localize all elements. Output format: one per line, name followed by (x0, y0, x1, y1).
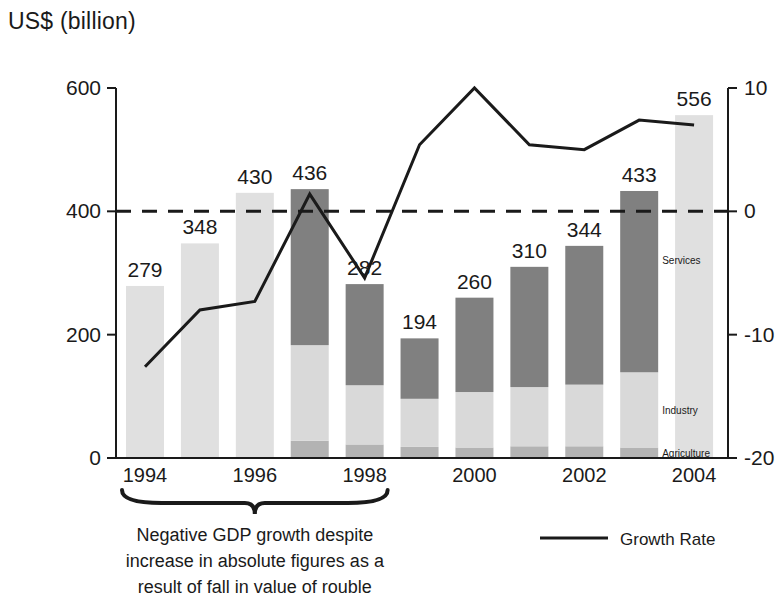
chart-container: US$ (billion) 27934843043628219426031034… (0, 0, 784, 600)
x-axis-year-label: 1996 (233, 464, 278, 486)
bar-value-label: 348 (182, 215, 217, 238)
bar-segment-industry (455, 392, 493, 448)
legend-group: Growth Rate (540, 530, 715, 549)
left-axis-tick-label: 200 (66, 323, 101, 346)
gdp-growth-chart: 279348430436282194260310344433556 Agricu… (0, 0, 784, 600)
bar-value-label: 282 (347, 256, 382, 279)
bar-segment-agriculture (620, 448, 658, 458)
bar-segment-industry (565, 385, 603, 447)
bar (236, 193, 274, 458)
bar-value-label: 436 (292, 161, 327, 184)
bar-segment-services (401, 338, 439, 398)
bar-value-label: 194 (402, 310, 437, 333)
bar-segment-agriculture (291, 441, 329, 458)
bar-value-label: 260 (457, 270, 492, 293)
left-axis-tick-label: 400 (66, 199, 101, 222)
bar-segment-industry (510, 387, 548, 446)
annotation-note-group: Negative GDP growth despiteincrease in a… (126, 525, 385, 597)
left-axis-tick-label: 600 (66, 76, 101, 99)
bar-segment-services (620, 191, 658, 372)
bar-segment-agriculture (565, 446, 603, 458)
x-axis-year-label: 2000 (452, 464, 497, 486)
bar-segment-agriculture (510, 446, 548, 458)
right-axis-tick-label: 10 (744, 76, 767, 99)
x-axis-year-label: 1994 (123, 464, 168, 486)
right-axis-tick-label: 0 (744, 199, 756, 222)
bar-segment-industry (346, 385, 384, 444)
x-axis-tick-labels-group: 199419961998200020022004 (123, 464, 717, 486)
bar-segment-services (455, 298, 493, 392)
bar-segment-agriculture (401, 447, 439, 458)
bar-segment-industry (620, 372, 658, 447)
bar-value-label: 433 (622, 163, 657, 186)
left-axis-tick-labels-group: 0200400600 (66, 76, 101, 469)
bar-value-label: 310 (512, 239, 547, 262)
right-axis-tick-labels-group: -20-10010 (744, 76, 774, 469)
annotation-line: increase in absolute figures as a (126, 551, 385, 571)
bar-value-label: 556 (677, 87, 712, 110)
x-axis-year-label: 2002 (562, 464, 607, 486)
x-axis-year-label: 2004 (672, 464, 717, 486)
bar-value-label: 344 (567, 218, 602, 241)
legend-label-growth-rate: Growth Rate (620, 530, 715, 549)
bar-segment-services (346, 284, 384, 385)
annotation-brace-group (122, 490, 388, 514)
bar-segment-services (510, 267, 548, 387)
x-axis-year-label: 1998 (342, 464, 387, 486)
segment-label-industry: Industry (662, 405, 698, 416)
bar (181, 243, 219, 458)
bar-value-label: 279 (127, 258, 162, 281)
bar-segment-industry (401, 399, 439, 447)
bar-segment-industry (291, 345, 329, 441)
bar-segment-services (565, 246, 603, 385)
bar-value-label: 430 (237, 165, 272, 188)
bar-segment-agriculture (455, 448, 493, 458)
annotation-line: result of fall in value of rouble (138, 577, 372, 597)
annotation-brace (122, 490, 388, 514)
annotation-line: Negative GDP growth despite (136, 525, 373, 545)
segment-label-agriculture: Agriculture (662, 448, 710, 459)
left-axis-tick-label: 0 (89, 446, 101, 469)
right-axis-tick-label: -10 (744, 323, 774, 346)
segment-label-services: Services (662, 255, 700, 266)
right-axis-tick-label: -20 (744, 446, 774, 469)
bar-segment-agriculture (346, 444, 384, 458)
bar (126, 286, 164, 458)
